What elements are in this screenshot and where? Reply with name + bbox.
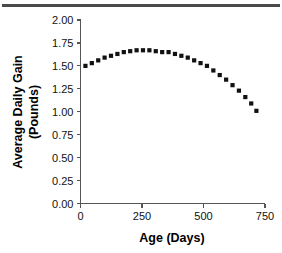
- y-tick-label: 1.25: [52, 83, 73, 95]
- data-point-marker: [237, 89, 241, 93]
- data-point-marker: [254, 109, 258, 113]
- x-tick-label: 750: [256, 210, 274, 222]
- y-axis-title-line1: Average Daily Gain: [11, 55, 25, 168]
- data-point-marker: [154, 49, 158, 53]
- data-point-marker: [211, 68, 215, 72]
- data-point-marker: [192, 58, 196, 62]
- data-point-marker: [115, 52, 119, 56]
- y-axis-tick-labels: 0.000.250.500.751.001.251.501.752.00: [52, 14, 73, 210]
- data-point-marker: [147, 48, 151, 52]
- data-point-marker: [109, 54, 113, 58]
- data-point-marker: [205, 64, 209, 68]
- y-tick-label: 1.50: [52, 60, 73, 72]
- data-point-marker: [122, 50, 126, 54]
- chart-plot: 0.000.250.500.751.001.251.501.752.00 025…: [0, 0, 282, 253]
- data-point-marker: [96, 58, 100, 62]
- data-point-marker: [103, 56, 107, 60]
- data-point-marker: [141, 48, 145, 52]
- y-tick-label: 0.00: [52, 198, 73, 210]
- x-axis-title: Age (Days): [139, 231, 204, 245]
- data-point-marker: [134, 48, 138, 52]
- data-point-marker: [249, 101, 253, 105]
- x-axis-group: 0250500750: [77, 204, 274, 222]
- y-tick-label: 1.00: [52, 106, 73, 118]
- figure-container: 0.000.250.500.751.001.251.501.752.00 025…: [0, 0, 282, 253]
- y-tick-label: 0.25: [52, 175, 73, 187]
- y-tick-label: 0.50: [52, 152, 73, 164]
- data-point-marker: [179, 54, 183, 58]
- data-point-marker: [224, 78, 228, 82]
- x-axis-tick-labels: 0250500750: [77, 210, 274, 222]
- y-tick-label: 0.75: [52, 129, 73, 141]
- data-point-marker: [90, 61, 94, 65]
- y-axis-group: 0.000.250.500.751.001.251.501.752.00: [52, 14, 80, 210]
- data-point-marker: [173, 52, 177, 56]
- x-tick-label: 500: [194, 210, 212, 222]
- data-point-marker: [83, 64, 87, 68]
- x-tick-label: 0: [77, 210, 83, 222]
- data-point-marker: [230, 83, 234, 87]
- data-point-marker: [218, 73, 222, 77]
- data-point-marker: [198, 61, 202, 65]
- y-tick-label: 1.75: [52, 37, 73, 49]
- data-point-series: [83, 48, 258, 113]
- y-tick-label: 2.00: [52, 14, 73, 26]
- data-point-marker: [243, 95, 247, 99]
- x-tick-label: 250: [133, 210, 151, 222]
- y-axis-title-line2: (Pounds): [27, 85, 41, 139]
- data-point-marker: [128, 49, 132, 53]
- data-point-marker: [160, 50, 164, 54]
- data-point-marker: [166, 50, 170, 54]
- data-point-marker: [186, 56, 190, 60]
